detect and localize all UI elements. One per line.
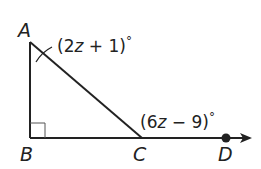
angle-a-expression: (2z + 1)° xyxy=(57,34,132,56)
label-a: A xyxy=(16,19,31,41)
right-angle-mark xyxy=(30,123,45,138)
label-d: D xyxy=(218,143,233,165)
angle-c-exterior-expression: (6z − 9)° xyxy=(140,110,215,132)
triangle-diagram: A B C D (2z + 1)° (6z − 9)° xyxy=(0,0,261,169)
segment-ac xyxy=(30,42,142,138)
point-d-dot xyxy=(222,134,231,143)
label-c: C xyxy=(133,143,147,165)
label-b: B xyxy=(20,143,33,165)
